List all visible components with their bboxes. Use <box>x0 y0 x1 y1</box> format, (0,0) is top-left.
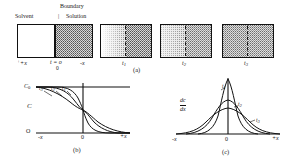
cell-t3-left-half <box>223 25 248 57</box>
cell-t0-time-sub: 0 <box>56 66 59 72</box>
cell-t2-time-label: t2 <box>182 60 186 68</box>
panel-b-curve-label-t2: t2 <box>51 86 55 93</box>
cell-t2-left-fade <box>161 25 186 57</box>
boundary-divider-glyph: | <box>58 13 59 19</box>
cell-t3 <box>222 24 274 58</box>
cell-t0 <box>17 24 93 58</box>
panel-c-x-zero-label: 0 <box>225 136 228 142</box>
cell-t1 <box>100 24 152 58</box>
cell-t1-time-label: t1 <box>122 60 126 68</box>
cell-t3-time-label: t3 <box>244 60 248 68</box>
solution-label: Solution <box>66 13 86 19</box>
cell-t1-left-fade <box>101 25 126 57</box>
cell-t3-boundary <box>247 26 248 56</box>
caption-c: (c) <box>222 148 229 155</box>
panel-c-ylabel-denominator: dx <box>180 106 186 113</box>
panel-c-plot <box>168 76 288 148</box>
panel-c-leader-t3 <box>250 120 255 122</box>
panel-c-curve-label-t2: t2 <box>238 102 242 109</box>
cell-t2-boundary <box>185 26 186 56</box>
cell-t3-right-half <box>248 25 273 57</box>
panel-b-x-right-label: +x <box>120 133 127 139</box>
cell-t0-axis-left: ++x+x <box>17 60 27 66</box>
caption-a: (a) <box>133 66 140 73</box>
cell-t2 <box>160 24 212 58</box>
panel-c-curve-label-t1: t1 <box>222 84 226 91</box>
panel-b-curve-label-t1: t1 <box>62 86 66 93</box>
panel-c-x-left-label: -x <box>172 136 177 142</box>
diffusion-figure: Boundary Solvent | Solution ++x+x t = o … <box>0 0 289 166</box>
panel-b-x-left-label: -x <box>38 134 43 140</box>
panel-c-ylabel: dc dx <box>180 97 186 113</box>
panel-c-curve-label-t3: t3 <box>256 118 260 125</box>
panel-c-x-right-label: +x <box>272 135 279 141</box>
panel-c-ylabel-numerator: dc <box>180 97 186 104</box>
cell-t0-boundary <box>54 25 55 57</box>
panel-b-origin-label: O <box>26 128 30 134</box>
cell-t1-boundary <box>125 26 126 56</box>
cell-t2-right-half <box>186 25 211 57</box>
panel-b-ylabel: C <box>27 103 32 110</box>
cell-t0-solution-half <box>55 25 92 57</box>
panel-b-c0-label: C0 <box>24 83 30 91</box>
cell-t0-solvent-half <box>18 25 55 57</box>
solvent-label: Solvent <box>15 13 33 19</box>
boundary-title: Boundary <box>60 3 84 9</box>
caption-b: (b) <box>73 146 81 153</box>
panel-b-curve-label-t3: t3 <box>39 86 43 93</box>
cell-t1-right-half <box>126 25 151 57</box>
panel-b-x-zero-label: 0 <box>81 134 84 140</box>
cell-t0-axis-right: -x <box>80 60 85 66</box>
